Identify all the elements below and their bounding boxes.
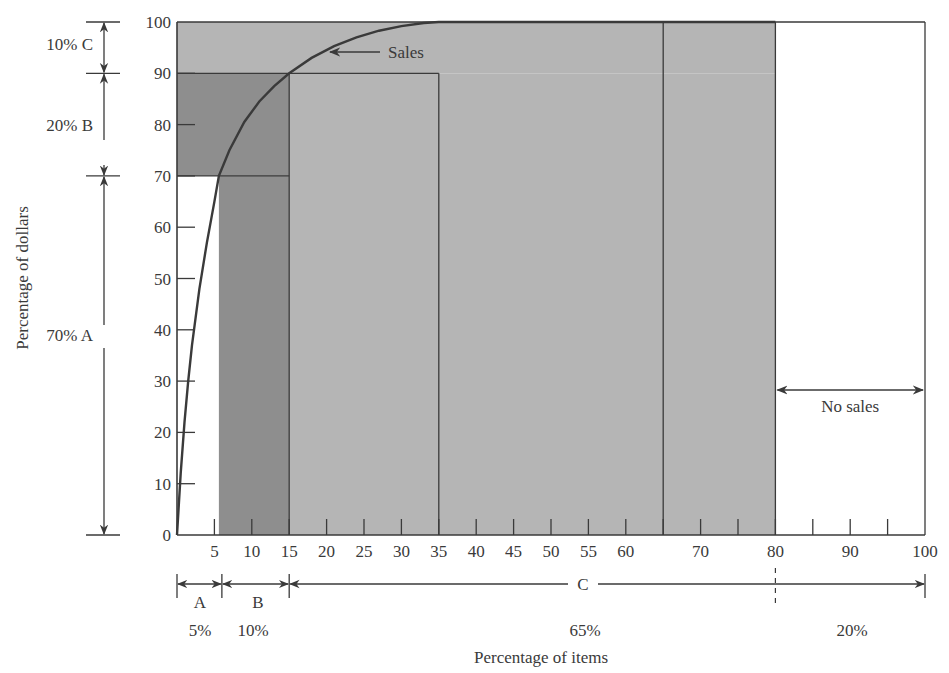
x-tick-label: 100 (912, 542, 938, 561)
x-tick-label: 25 (356, 542, 373, 561)
x-tick-label: 55 (580, 542, 597, 561)
left-bracket-label-a: 70% A (46, 326, 93, 345)
x-tick-label: 50 (543, 542, 560, 561)
y-tick-label: 10 (154, 475, 171, 494)
shaded-region-light (177, 22, 775, 73)
bottom-pct-a: 5% (189, 621, 212, 640)
bottom-bracket-label-a: A (194, 593, 207, 612)
x-tick-label: 90 (842, 542, 859, 561)
x-tick-label: 35 (430, 542, 447, 561)
x-tick-label: 5 (210, 542, 219, 561)
shaded-region-dark (219, 176, 289, 535)
shaded-region-light (289, 73, 775, 535)
shaded-regions (177, 22, 775, 535)
y-tick-label: 100 (146, 13, 172, 32)
y-tick-label: 20 (154, 423, 171, 442)
sales-label: Sales (388, 43, 424, 62)
x-tick-label: 20 (318, 542, 335, 561)
y-tick-label: 0 (163, 526, 172, 545)
bottom-pct-c: 65% (569, 621, 600, 640)
y-tick-label: 60 (154, 218, 171, 237)
x-axis-title: Percentage of items (474, 648, 608, 667)
left-bracket-label-c: 10% C (46, 35, 93, 54)
y-tick-label: 40 (154, 321, 171, 340)
x-tick-label: 60 (617, 542, 634, 561)
no-sales-label: No sales (821, 397, 879, 416)
y-tick-label: 80 (154, 116, 171, 135)
y-axis-title: Percentage of dollars (13, 206, 32, 350)
x-tick-label: 10 (243, 542, 260, 561)
bottom-pct-no-sales: 20% (836, 621, 867, 640)
x-tick-label: 30 (393, 542, 410, 561)
y-tick-label: 90 (154, 64, 171, 83)
bottom-item-brackets (177, 568, 925, 605)
bottom-bracket-label-b: B (252, 593, 263, 612)
y-tick-label: 30 (154, 372, 171, 391)
x-tick-label: 70 (692, 542, 709, 561)
left-dollar-brackets (86, 22, 120, 535)
bottom-pct-b: 10% (237, 621, 268, 640)
x-tick-label: 80 (767, 542, 784, 561)
y-tick-label: 50 (154, 270, 171, 289)
x-tick-label: 45 (505, 542, 522, 561)
y-tick-label: 70 (154, 167, 171, 186)
left-bracket-label-b: 20% B (46, 116, 93, 135)
bottom-bracket-label-c: C (577, 575, 588, 594)
x-tick-label: 15 (281, 542, 298, 561)
abc-analysis-chart: 51015202530354045505560708090100 0102030… (0, 0, 949, 673)
x-tick-label: 40 (468, 542, 485, 561)
